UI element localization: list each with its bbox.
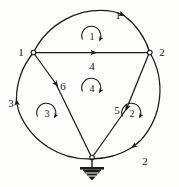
mesh-2-label: 2 <box>130 108 135 119</box>
node-2-label: 2 <box>159 46 165 58</box>
branch-3-label: 3 <box>8 97 14 109</box>
branch-4-label: 4 <box>89 60 95 72</box>
branch-6-chord <box>34 54 92 158</box>
branch-2-label: 2 <box>142 155 148 167</box>
node-2-dot <box>148 50 153 55</box>
mesh-3-label: 3 <box>45 108 50 119</box>
branch-6-label: 6 <box>60 80 66 92</box>
mesh-1-label: 1 <box>90 31 95 42</box>
branch-3-arc <box>16 53 92 159</box>
node-1-label: 1 <box>18 46 24 58</box>
branch-5-chord <box>93 54 150 158</box>
figure-canvas: 1 2 3 4 1 2 1 <box>0 0 179 187</box>
mesh-4-label: 4 <box>90 83 95 94</box>
node-1-dot <box>31 50 36 55</box>
mesh-3-marker: 3 <box>37 103 56 119</box>
mesh-4-marker: 4 <box>82 78 101 94</box>
branch-5-label: 5 <box>114 104 120 116</box>
circuit-graph-svg: 1 2 3 4 1 2 1 <box>0 0 179 187</box>
mesh-1-marker: 1 <box>82 26 101 42</box>
branch-1-label: 1 <box>115 9 121 21</box>
ground-earth-symbol <box>80 158 104 180</box>
